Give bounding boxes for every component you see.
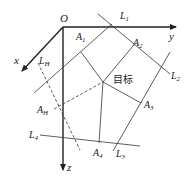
edge-A1-target [81, 52, 103, 82]
label-L3: L3 [115, 148, 126, 161]
label-x-axis: x [13, 54, 19, 66]
label-A2: A2 [132, 37, 143, 50]
edge-A4-target [99, 82, 103, 143]
line-L1 [34, 24, 112, 93]
line-L3 [113, 52, 170, 151]
label-origin: O [60, 12, 68, 24]
edge-A3-target [103, 82, 141, 103]
label-AH: AH [36, 104, 49, 117]
label-y-axis: y [168, 30, 174, 42]
label-L4: L4 [28, 129, 39, 142]
dashed-AH [54, 82, 103, 109]
coordinate-diagram: O x y z L1 L2 L3 L4 LH A1 A2 A3 A4 AH 目标 [0, 0, 192, 181]
label-z-axis: z [66, 161, 72, 173]
label-target: 目标 [113, 74, 133, 85]
label-L1: L1 [119, 10, 129, 23]
label-A1: A1 [75, 31, 86, 44]
label-A4: A4 [92, 147, 103, 160]
label-A3: A3 [143, 99, 154, 112]
label-LH: LH [38, 55, 51, 68]
label-L2: L2 [170, 70, 181, 83]
line-L4 [40, 135, 140, 146]
